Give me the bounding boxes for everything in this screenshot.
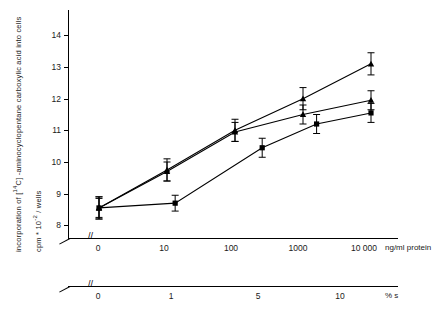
x-axis-secondary-break-stub bbox=[59, 286, 70, 293]
y-axis-units-exponent: -2 bbox=[32, 215, 38, 221]
x-axis-primary-line bbox=[68, 238, 398, 239]
x-axis-primary-break-mark: // bbox=[88, 231, 93, 241]
x-tick-label-primary-4: 10 000 bbox=[351, 243, 377, 253]
x-tick-label-primary-3: 1000 bbox=[289, 243, 308, 253]
y-axis-label-group: incorporation of [14C] -aminocyclopentan… bbox=[0, 0, 56, 270]
isotope-superscript: 14 bbox=[12, 185, 18, 192]
x-axis-secondary-unit-label: % s bbox=[385, 291, 398, 300]
x-axis-secondary-line bbox=[68, 286, 398, 287]
chart-figure: incorporation of [14C] -aminocyclopentan… bbox=[0, 0, 446, 325]
x-tick-label-primary-0: 0 bbox=[96, 243, 101, 253]
y-axis-units-pre: cpm * 10 bbox=[34, 221, 43, 252]
y-axis-label-suffix: ] -aminocyclopentane carboxylic acid int… bbox=[14, 17, 23, 180]
y-tick-label-13: 13 bbox=[52, 62, 61, 72]
data-layer bbox=[69, 10, 399, 238]
x-axis-primary-unit-label: ng/ml protein bbox=[385, 243, 431, 252]
x-tick-label-primary-2: 100 bbox=[224, 243, 238, 253]
y-axis-label-line1: incorporation of [14C] -aminocyclopentan… bbox=[12, 17, 23, 252]
x-tick-label-secondary-1: 1 bbox=[169, 291, 174, 301]
x-axis-secondary-break-mark: // bbox=[88, 279, 93, 289]
y-axis-label-prefix: incorporation of [ bbox=[14, 193, 23, 252]
x-tick-label-secondary-0: 0 bbox=[96, 291, 101, 301]
y-tick-label-12: 12 bbox=[52, 94, 61, 104]
y-tick-label-11: 11 bbox=[52, 125, 61, 135]
y-axis-label-line2: cpm * 10-2 / wells bbox=[32, 191, 43, 252]
y-axis-units-post: / wells bbox=[34, 191, 43, 216]
x-tick-label-secondary-2: 5 bbox=[256, 291, 261, 301]
y-tick-label-8: 8 bbox=[56, 220, 61, 230]
x-tick-label-secondary-3: 10 bbox=[335, 291, 344, 301]
x-tick-label-primary-1: 10 bbox=[159, 243, 168, 253]
y-tick-label-14: 14 bbox=[52, 30, 61, 40]
isotope-symbol: C bbox=[14, 180, 23, 186]
y-tick-label-9: 9 bbox=[56, 189, 61, 199]
x-axis-primary-break-stub bbox=[59, 238, 70, 245]
y-tick-label-10: 10 bbox=[52, 157, 61, 167]
plot-area: 14 13 12 11 10 9 8 bbox=[68, 10, 398, 238]
